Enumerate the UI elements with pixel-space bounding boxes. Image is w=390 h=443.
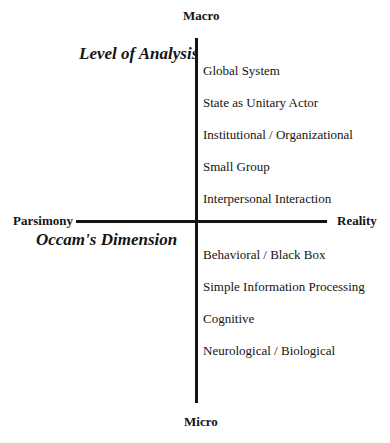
micro-label: Micro: [184, 414, 218, 430]
level-state-unitary-actor: State as Unitary Actor: [203, 95, 318, 111]
level-behavioral: Behavioral / Black Box: [203, 247, 325, 263]
level-neurological: Neurological / Biological: [203, 343, 335, 359]
level-institutional: Institutional / Organizational: [203, 127, 353, 143]
level-global-system: Global System: [203, 63, 280, 79]
level-small-group: Small Group: [203, 159, 270, 175]
level-simple-info-processing: Simple Information Processing: [203, 279, 365, 295]
horizontal-axis: [76, 220, 327, 223]
level-cognitive: Cognitive: [203, 311, 254, 327]
reality-label: Reality: [337, 213, 377, 229]
level-of-analysis-title: Level of Analysis: [79, 44, 198, 64]
occams-dimension-title: Occam's Dimension: [36, 230, 177, 250]
parsimony-label: Parsimony: [13, 213, 73, 229]
level-interpersonal: Interpersonal Interaction: [203, 191, 331, 207]
macro-label: Macro: [183, 8, 220, 24]
